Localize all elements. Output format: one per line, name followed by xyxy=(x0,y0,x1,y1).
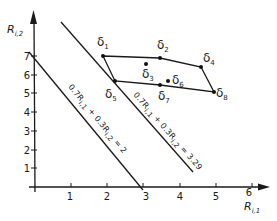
y-tick-6: 6 xyxy=(24,70,30,81)
point-d5 xyxy=(113,79,117,83)
x-tick-1: 1 xyxy=(67,191,73,202)
label-d2: δ2 xyxy=(157,38,169,54)
point-d6 xyxy=(166,79,170,83)
y-axis xyxy=(34,18,35,192)
y-axis-title: Ri,2 xyxy=(7,23,24,38)
feasible-region-diagram: 1 2 3 4 5 6 1 2 3 4 5 6 7 Ri,2 Ri,1 0.7R… xyxy=(0,0,277,221)
y-tick-5: 5 xyxy=(24,88,30,99)
x-axis-arrow-icon xyxy=(258,184,270,191)
label-d7: δ7 xyxy=(158,89,170,105)
label-d5: δ5 xyxy=(105,87,117,103)
y-tick-2: 2 xyxy=(24,145,30,156)
label-d4: δ4 xyxy=(203,51,215,67)
point-labels: δ1 δ2 δ3 δ4 δ5 δ6 δ7 δ8 xyxy=(97,35,228,105)
label-d6: δ6 xyxy=(172,73,184,89)
label-d3: δ3 xyxy=(142,67,154,83)
constraint-line-2 xyxy=(29,52,143,190)
point-d4 xyxy=(199,65,203,69)
y-tick-labels: 1 2 3 4 5 6 7 xyxy=(24,51,30,174)
x-tick-2: 2 xyxy=(104,191,110,202)
y-tick-3: 3 xyxy=(24,126,30,137)
x-tick-5: 5 xyxy=(213,191,219,202)
convex-hull xyxy=(103,56,214,92)
x-tick-4: 4 xyxy=(177,191,183,202)
constraint-label-2: 0.7Ri,1 + 0.3Ri,2 = 2 xyxy=(65,83,129,157)
label-d8: δ8 xyxy=(216,86,228,102)
point-d2 xyxy=(158,56,162,60)
point-d7 xyxy=(158,83,162,87)
x-tick-labels: 1 2 3 4 5 6 xyxy=(67,187,252,202)
y-axis-arrow-icon xyxy=(30,10,37,24)
y-tick-4: 4 xyxy=(24,107,30,118)
point-d1 xyxy=(101,54,105,58)
point-d3 xyxy=(144,62,148,66)
y-tick-1: 1 xyxy=(24,163,30,174)
x-tick-3: 3 xyxy=(143,191,149,202)
x-axis-title: Ri,1 xyxy=(244,200,260,215)
label-d1: δ1 xyxy=(97,35,109,51)
x-tick-6: 6 xyxy=(246,187,252,198)
